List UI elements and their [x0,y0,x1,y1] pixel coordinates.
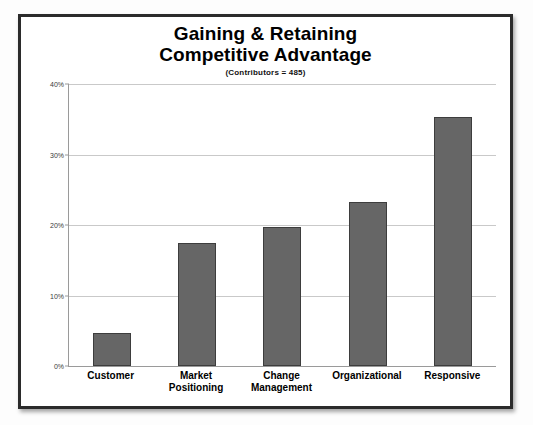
category-axis: CustomerMarketPositioningChangeManagemen… [68,370,496,408]
chart-title-block: Gaining & Retaining Competitive Advantag… [21,23,510,77]
bar-organizational[interactable] [349,202,387,366]
bar-customer[interactable] [93,333,131,366]
bar-change-management[interactable] [263,227,301,366]
x-axis-label-line: Organizational [324,370,409,382]
x-axis-label-line: Customer [68,370,153,382]
chart-frame: Gaining & Retaining Competitive Advantag… [18,14,513,409]
x-axis-label-line: Management [239,382,324,394]
x-axis-label-line: Positioning [153,382,238,394]
x-axis-label-line: Change [239,370,324,382]
y-tick-label: 0% [54,363,64,370]
x-axis-label: Organizational [324,370,409,382]
y-tick-label: 20% [50,222,64,229]
bar-responsive[interactable] [434,117,472,366]
bar-slot [240,84,325,366]
x-axis-label: Responsive [410,370,495,382]
x-axis-label: MarketPositioning [153,370,238,394]
y-tick-label: 10% [50,292,64,299]
y-tick-label: 30% [50,151,64,158]
plot-area: 0%10%20%30%40% [68,84,496,367]
bar-market-positioning[interactable] [178,243,216,366]
page-title-line-1: Gaining & Retaining [21,23,510,44]
x-axis-label: Customer [68,370,153,382]
x-axis-label-line: Market [153,370,238,382]
bar-slot [325,84,410,366]
screenshot-root: Gaining & Retaining Competitive Advantag… [0,0,533,425]
y-tick-label: 40% [50,81,64,88]
page-title-line-2: Competitive Advantage [21,44,510,65]
chart-subtitle: (Contributors = 485) [21,68,510,77]
bar-slot [154,84,239,366]
bars-layer [69,84,496,366]
bar-slot [411,84,496,366]
x-axis-label-line: Responsive [410,370,495,382]
x-axis-label: ChangeManagement [239,370,324,394]
gridline-0% [69,366,496,367]
bar-slot [69,84,154,366]
